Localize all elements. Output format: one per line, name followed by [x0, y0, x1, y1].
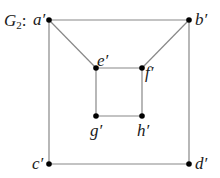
- node-h: [139, 113, 145, 119]
- label-a: a′: [33, 11, 45, 28]
- edge-a-e: [49, 20, 96, 68]
- node-f: [139, 65, 145, 71]
- node-c: [46, 161, 52, 167]
- label-b: b′: [195, 11, 207, 28]
- label-f: f′: [145, 64, 153, 81]
- edge-b-f: [142, 20, 189, 68]
- label-d: d′: [195, 155, 207, 172]
- node-g: [93, 113, 99, 119]
- node-a: [46, 17, 52, 23]
- node-b: [186, 17, 192, 23]
- label-g: g′: [90, 122, 102, 139]
- graph-diagram: G2: a′ b′ e′ f′ g′ h′ c′ d′: [0, 0, 220, 178]
- node-d: [186, 161, 192, 167]
- graph-title: G2:: [4, 12, 27, 31]
- graph-title-main: G: [4, 11, 16, 30]
- label-c: c′: [32, 155, 43, 172]
- graph-title-suffix: :: [22, 11, 27, 30]
- label-e: e′: [97, 52, 108, 69]
- label-h: h′: [137, 122, 149, 139]
